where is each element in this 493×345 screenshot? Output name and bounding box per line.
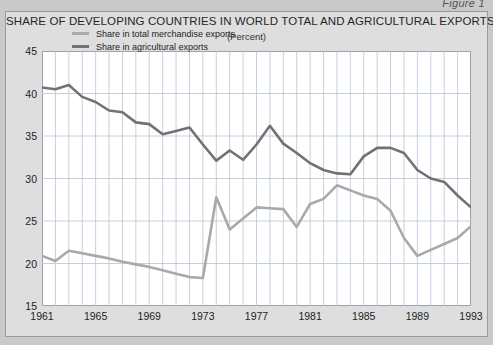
chart-panel: SHARE OF DEVELOPING COUNTRIES IN WORLD T… — [5, 11, 488, 337]
x-axis-tick-label: 1977 — [245, 310, 268, 322]
y-axis-tick-label: 40 — [25, 88, 37, 100]
x-axis-tick-label: 1973 — [191, 310, 214, 322]
x-axis-tick-label: 1985 — [352, 310, 375, 322]
plot-region: 15202530354045 1961196519691973197719811… — [42, 51, 471, 306]
x-axis-tick-label: 1965 — [84, 310, 107, 322]
chart-title: SHARE OF DEVELOPING COUNTRIES IN WORLD T… — [6, 15, 487, 27]
x-axis-tick-label: 1981 — [298, 310, 321, 322]
legend-label: Share in total merchandise exports — [96, 29, 235, 39]
y-axis-tick-label: 25 — [25, 215, 37, 227]
series-line — [42, 185, 471, 278]
y-axis-tick-label: 20 — [25, 258, 37, 270]
chart-legend: Share in total merchandise exportsShare … — [72, 27, 235, 53]
figure-label: Figure 1 — [442, 0, 485, 9]
legend-item: Share in agricultural exports — [72, 40, 235, 53]
legend-item: Share in total merchandise exports — [72, 27, 235, 40]
x-axis-tick-label: 1993 — [459, 310, 482, 322]
data-series-layer — [42, 51, 471, 306]
y-axis-tick-label: 30 — [25, 173, 37, 185]
x-axis-tick-label: 1989 — [406, 310, 429, 322]
series-line — [42, 85, 471, 207]
legend-label: Share in agricultural exports — [96, 42, 208, 52]
x-axis-tick-label: 1969 — [138, 310, 161, 322]
legend-swatch-total_merchandise — [72, 32, 89, 35]
legend-swatch-agricultural — [72, 45, 89, 48]
y-axis-tick-label: 35 — [25, 130, 37, 142]
y-axis-tick-label: 45 — [25, 45, 37, 57]
x-axis-tick-label: 1961 — [30, 310, 53, 322]
